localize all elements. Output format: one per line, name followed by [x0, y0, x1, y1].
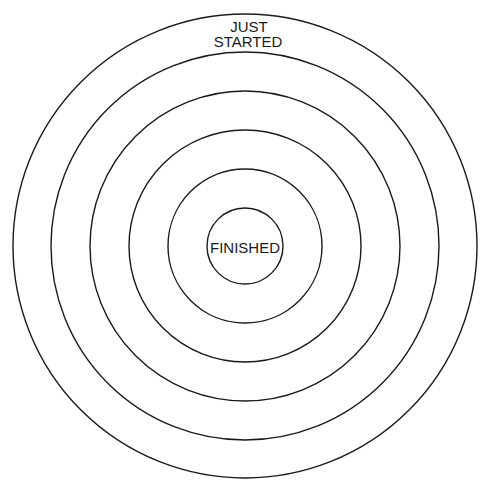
label-started: STARTED	[214, 33, 283, 50]
label-finished: FINISHED	[210, 239, 280, 256]
target-diagram: JUST STARTED FINISHED	[0, 0, 487, 489]
